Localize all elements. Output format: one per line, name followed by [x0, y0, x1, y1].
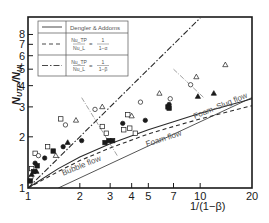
data-point-circle-open [36, 153, 40, 157]
data-point-circle-open [138, 100, 142, 104]
y-tick-label: 1 [19, 182, 25, 194]
regime-label: Bubble flow [61, 154, 103, 178]
x-axis-label: 1/(1−β) [190, 200, 225, 212]
data-point-square-open [59, 117, 63, 121]
x-tick-label: 4 [129, 190, 135, 202]
svg-text:Nu_TP: Nu_TP [71, 37, 87, 43]
regime-label: Foam flow [145, 129, 183, 149]
data-point-square-filled [110, 138, 114, 142]
data-point-square-open [104, 131, 108, 135]
x-tick-label: 20 [246, 190, 258, 202]
data-point-circle-filled [121, 121, 125, 125]
svg-text:1: 1 [102, 37, 105, 43]
chart: Bubble flowFoam flowFoam–Slug flow 12345… [0, 0, 269, 223]
svg-text:=: = [89, 63, 93, 69]
svg-text:=: = [89, 41, 93, 47]
data-point-triangle-open [194, 74, 199, 79]
y-tick-label: 6 [19, 50, 25, 62]
y-tick-label: 2 [19, 131, 25, 143]
y-tick-label: 8 [19, 28, 25, 40]
data-point-square-open [128, 126, 132, 130]
line-solid [28, 99, 252, 188]
x-tick-label: 1 [25, 190, 31, 202]
data-point-circle-open [63, 123, 67, 127]
svg-text:Nu_L: Nu_L [73, 45, 85, 51]
legend: Dengler & AddomsNu_TPNu_L=11−αNu_TPNu_L=… [38, 21, 128, 76]
data-point-circle-open [168, 97, 172, 101]
regime-labels: Bubble flowFoam flowFoam–Slug flow [61, 91, 249, 178]
legend-label: Dengler & Addoms [70, 25, 120, 31]
x-tick-label: 5 [145, 190, 151, 202]
data-point-square-filled [35, 164, 39, 168]
regime-boundary [82, 98, 118, 156]
data-point-triangle-open [223, 62, 228, 67]
regime-label: Foam–Slug flow [192, 91, 249, 121]
x-tick-label: 3 [107, 190, 113, 202]
data-point-square-filled [51, 149, 55, 153]
svg-text:1: 1 [102, 59, 105, 65]
data-point-triangle-filled [195, 94, 200, 99]
data-point-circle-filled [42, 156, 46, 160]
data-point-square-open [45, 144, 49, 148]
y-axis-label: NUTP/NUL [10, 63, 23, 105]
data-point-triangle-open [157, 91, 162, 96]
data-point-square-open [100, 124, 104, 128]
data-point-triangle-open [100, 104, 105, 109]
data-point-square-open [122, 128, 126, 132]
data-point-circle-filled [79, 138, 83, 142]
data-point-circle-filled [143, 118, 147, 122]
data-point-triangle-filled [65, 140, 70, 145]
data-point-square-open [133, 131, 137, 135]
data-point-circle-filled [61, 144, 65, 148]
data-point-circle-open [188, 83, 192, 87]
svg-text:NUTP/NUL: NUTP/NUL [10, 63, 23, 105]
x-tick-label: 7 [170, 190, 176, 202]
svg-text:Nu_TP: Nu_TP [71, 59, 87, 65]
x-tick-label: 2 [77, 190, 83, 202]
svg-text:1−α: 1−α [99, 45, 108, 51]
svg-text:1−β: 1−β [99, 66, 108, 72]
data-point-circle-open [93, 107, 97, 111]
data-point-square-open [126, 112, 130, 116]
data-point-triangle-filled [211, 91, 216, 96]
data-point-triangle-open [73, 118, 78, 123]
data-point-square-filled [167, 106, 171, 110]
data-point-square-filled [32, 169, 36, 173]
svg-text:Nu_L: Nu_L [73, 66, 85, 72]
